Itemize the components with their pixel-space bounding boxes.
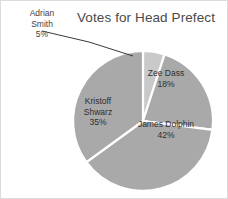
slice-label-adrian-smith-line1: Adrian [19,8,65,19]
slice-label-kristoff-shwarz-line1: Kristoff [69,96,127,107]
slice-label-kristoff-shwarz: Kristoff Shwarz 35% [69,96,127,128]
slice-value-james-dolphin: 42% [127,130,205,141]
slice-label-adrian-smith: Adrian Smith 5% [19,8,65,40]
chart-canvas: Votes for Head Prefect Adrian Smith 5% Z… [1,1,227,198]
slice-label-adrian-smith-line2: Smith [19,19,65,30]
slice-value-zee-dass: 18% [135,79,197,90]
slice-label-james-dolphin-name: James Dolphin [127,119,205,130]
slice-value-kristoff-shwarz: 35% [69,117,127,128]
slice-label-kristoff-shwarz-line2: Shwarz [69,107,127,118]
slice-label-zee-dass: Zee Dass 18% [135,68,197,89]
slice-value-adrian-smith: 5% [19,29,65,40]
slice-label-james-dolphin: James Dolphin 42% [127,119,205,140]
slice-label-zee-dass-name: Zee Dass [135,68,197,79]
pie-chart-screenshot: Votes for Head Prefect Adrian Smith 5% Z… [0,0,228,199]
